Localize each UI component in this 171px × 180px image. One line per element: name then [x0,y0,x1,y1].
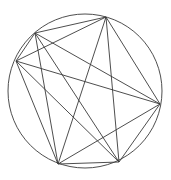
edge-D-E [58,104,160,164]
edge-B-C [16,17,106,61]
edge-group [16,17,160,164]
edge-B-D [106,17,160,104]
edge-D-F [119,104,160,162]
circumscribed-circle [8,14,162,168]
graph-diagram [0,0,171,180]
edge-C-E [16,61,58,164]
edge-A-F [35,33,119,162]
